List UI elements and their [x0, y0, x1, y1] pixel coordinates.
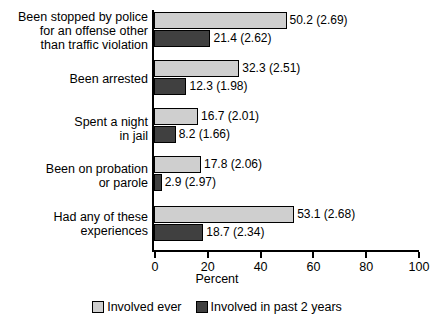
x-axis-title: Percent — [0, 272, 434, 286]
x-tick-100 — [418, 252, 420, 258]
category-label-0-line-0: Been stopped by police — [4, 10, 148, 24]
bar-ever-0 — [154, 12, 287, 29]
legend-item-ever: Involved ever — [92, 300, 181, 314]
bar-value-label-ever-3: 17.8 (2.06) — [204, 156, 262, 173]
bar-past-2 — [154, 126, 176, 143]
bar-value-label-past-4: 18.7 (2.34) — [206, 224, 264, 241]
bar-ever-4 — [154, 206, 294, 223]
category-label-3-line-0: Been on probation — [4, 162, 148, 176]
x-tick-40 — [260, 252, 262, 258]
category-label-0-line-1: for an offense other — [4, 24, 148, 38]
category-label-4-line-1: experiences — [4, 224, 148, 238]
x-tick-80 — [365, 252, 367, 258]
bar-group-1: 32.3 (2.51) 12.3 (1.98) — [154, 60, 418, 98]
category-label-4-line-0: Had any of these — [4, 210, 148, 224]
bar-past-0 — [154, 30, 210, 47]
bar-value-label-past-2: 8.2 (1.66) — [179, 126, 230, 143]
x-tick-60 — [312, 252, 314, 258]
chart-legend: Involved ever Involved in past 2 years — [0, 300, 434, 314]
x-axis-line — [152, 250, 419, 252]
plot-area: 50.2 (2.69) 21.4 (2.62) 32.3 (2.51) 12.3… — [152, 10, 418, 252]
category-label-2-line-1: in jail — [4, 129, 148, 143]
legend-swatch-ever-icon — [92, 301, 104, 313]
x-tick-0 — [154, 252, 156, 258]
bar-ever-2 — [154, 108, 198, 125]
category-label-0: Been stopped by police for an offense ot… — [4, 10, 152, 52]
bar-value-label-past-3: 2.9 (2.97) — [165, 174, 216, 191]
bar-past-1 — [154, 78, 186, 95]
bar-group-2: 16.7 (2.01) 8.2 (1.66) — [154, 108, 418, 146]
legend-swatch-past-icon — [196, 301, 208, 313]
bar-group-3: 17.8 (2.06) 2.9 (2.97) — [154, 156, 418, 194]
category-axis-labels: Been stopped by police for an offense ot… — [0, 10, 152, 252]
category-label-4: Had any of these experiences — [4, 210, 152, 238]
category-label-3: Been on probation or parole — [4, 162, 152, 190]
bar-value-label-past-0: 21.4 (2.62) — [213, 30, 271, 47]
bar-group-0: 50.2 (2.69) 21.4 (2.62) — [154, 12, 418, 50]
bar-value-label-ever-1: 32.3 (2.51) — [242, 60, 300, 77]
category-label-2-line-0: Spent a night — [4, 115, 148, 129]
bar-value-label-ever-0: 50.2 (2.69) — [290, 12, 348, 29]
bar-group-4: 53.1 (2.68) 18.7 (2.34) — [154, 206, 418, 244]
category-label-0-line-2: than traffic violation — [4, 38, 148, 52]
category-label-3-line-1: or parole — [4, 176, 148, 190]
legend-item-past: Involved in past 2 years — [196, 300, 342, 314]
category-label-1-line-0: Been arrested — [4, 72, 148, 86]
category-label-2: Spent a night in jail — [4, 115, 152, 143]
bar-past-4 — [154, 224, 203, 241]
legend-label-past: Involved in past 2 years — [211, 300, 342, 314]
bar-ever-3 — [154, 156, 201, 173]
bar-ever-1 — [154, 60, 239, 77]
legend-label-ever: Involved ever — [107, 300, 181, 314]
bar-chart: Been stopped by police for an offense ot… — [0, 0, 434, 324]
category-label-1: Been arrested — [4, 72, 152, 86]
bar-value-label-ever-2: 16.7 (2.01) — [201, 108, 259, 125]
x-tick-20 — [207, 252, 209, 258]
bar-value-label-ever-4: 53.1 (2.68) — [297, 206, 355, 223]
bar-value-label-past-1: 12.3 (1.98) — [189, 78, 247, 95]
bar-past-3 — [154, 174, 162, 191]
